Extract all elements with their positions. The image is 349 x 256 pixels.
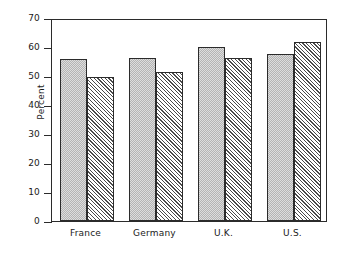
bar-us-solid (267, 54, 294, 221)
bar-uk-solid (198, 47, 225, 221)
y-axis-tick-label: 50 (6, 71, 40, 81)
y-axis-tick-label: 0 (6, 216, 40, 226)
y-axis-tick-label: 60 (6, 42, 40, 52)
y-axis-tick-label: 20 (6, 158, 40, 168)
y-axis-tick-label: 70 (6, 13, 40, 23)
x-axis-label: U.S. (248, 228, 338, 238)
plot-area (51, 19, 327, 222)
y-axis-tick-label: 40 (6, 100, 40, 110)
y-axis-tick-label: 10 (6, 187, 40, 197)
bar-us-hatched (294, 42, 321, 221)
y-axis-tick (44, 222, 52, 223)
y-axis-tick-label: 30 (6, 129, 40, 139)
bar-germany-solid (129, 58, 156, 221)
bar-uk-hatched (225, 58, 252, 221)
bar-germany-hatched (156, 72, 183, 221)
bar-chart: Percent 010203040506070 FranceGermanyU.K… (0, 0, 349, 256)
bar-france-solid (60, 59, 87, 221)
bar-france-hatched (87, 77, 114, 221)
